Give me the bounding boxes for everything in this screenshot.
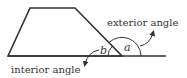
interior-angle-arc [108, 46, 113, 56]
interior-arrow [85, 50, 99, 64]
angle-a-label: a [124, 41, 131, 54]
exterior-arrow [140, 33, 153, 46]
exterior-angle-label: exterior angle [107, 17, 178, 28]
angle-diagram: b a exterior angle interior angle [0, 0, 187, 78]
interior-angle-label: interior angle [11, 64, 81, 75]
angle-b-label: b [100, 44, 107, 57]
